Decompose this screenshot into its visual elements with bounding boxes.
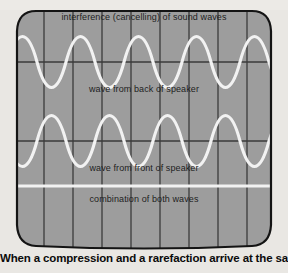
oscilloscope-screen: [14, 9, 274, 251]
screen-background: [17, 11, 271, 249]
figure-caption: When a compression and a rarefaction arr…: [0, 252, 288, 264]
figure-container: interference (cancelling) of sound waves…: [0, 0, 288, 273]
scope-svg: [14, 9, 274, 251]
